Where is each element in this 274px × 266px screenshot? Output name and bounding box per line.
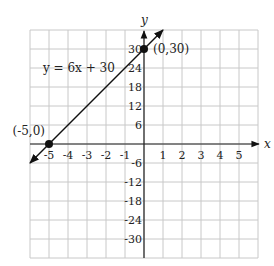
y-tick-label: 6 <box>135 119 142 132</box>
y-tick-label: 24 <box>128 62 142 75</box>
y-tick-label: -12 <box>124 176 142 189</box>
y-tick-label: -24 <box>124 214 142 227</box>
point-label: (-5,0) <box>12 124 45 138</box>
labels: x y y = 6x + 30 <box>42 13 271 151</box>
x-axis-label: x <box>264 137 271 151</box>
x-tick-label: 5 <box>236 149 243 162</box>
x-tick-label: -4 <box>63 149 74 162</box>
y-tick-label: 18 <box>128 81 142 94</box>
data-point <box>140 45 148 53</box>
y-axis-label: y <box>140 13 148 27</box>
equation-label: y = 6x + 30 <box>42 61 115 75</box>
point-label: (0,30) <box>153 42 189 56</box>
x-tick-label: 2 <box>179 149 186 162</box>
y-tick-label: -30 <box>124 233 142 246</box>
x-tick-label: 4 <box>217 149 224 162</box>
x-tick-label: 3 <box>198 149 205 162</box>
y-tick-label: -18 <box>124 195 142 208</box>
y-tick-label: -6 <box>131 157 142 170</box>
x-tick-label: -2 <box>101 149 112 162</box>
data-point <box>45 140 53 148</box>
x-tick-label: -1 <box>120 149 131 162</box>
y-tick-label: 12 <box>128 100 142 113</box>
x-tick-label: -5 <box>44 149 55 162</box>
x-tick-label: -3 <box>82 149 93 162</box>
x-tick-label: 1 <box>160 149 167 162</box>
coordinate-plane-chart: -5-4-3-2-112345302418126-6-12-18-24-30 (… <box>0 0 274 266</box>
